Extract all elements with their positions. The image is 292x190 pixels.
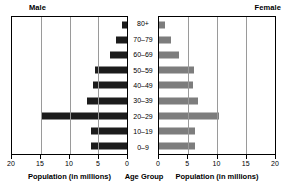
bar-male-10–19 [91,128,127,135]
tick-label: 10 [213,160,221,167]
age-group-label: 20–29 [128,109,158,124]
age-group-label: 70–79 [128,31,158,46]
age-group-label: 30–39 [128,93,158,108]
gridline [188,17,189,154]
gridline [41,17,42,154]
age-group-label: 50–59 [128,62,158,77]
age-group-label: 80+ [128,16,158,31]
gridline [98,17,99,154]
bar-female-0–9 [159,143,195,150]
age-group-label: 60–69 [128,47,158,62]
bar-male-30–39 [87,97,127,104]
age-group-label: 40–49 [128,78,158,93]
bar-female-10–19 [159,128,195,135]
gridline [246,17,247,154]
bar-female-80+ [159,21,165,28]
age-group-label: 10–19 [128,124,158,139]
male-plot-area [11,16,128,155]
male-axis-caption: Population (in millions) [11,172,128,181]
bar-male-20–29 [41,112,127,119]
tick-label: 20 [7,160,15,167]
gridline [70,17,71,154]
tick-mark [11,155,12,159]
gridline [217,17,218,154]
tick-mark [187,155,188,159]
tick-mark [127,155,128,159]
tick-label: 0 [125,160,129,167]
female-axis-caption: Population (in millions) [158,172,276,181]
tick-label: 0 [156,160,160,167]
tick-label: 15 [36,160,44,167]
tick-mark [217,155,218,159]
tick-mark [275,155,276,159]
female-side-label: Female [255,3,281,12]
age-group-label: 0–9 [128,140,158,155]
bar-male-80+ [122,21,127,28]
bar-male-50–59 [95,67,127,74]
tick-mark [158,155,159,159]
tick-label: 5 [185,160,189,167]
tick-label: 20 [271,160,279,167]
bar-female-60–69 [159,52,179,59]
tick-label: 15 [242,160,250,167]
tick-mark [69,155,70,159]
bar-female-30–39 [159,97,198,104]
tick-mark [40,155,41,159]
female-plot-area [158,16,276,155]
tick-mark [98,155,99,159]
tick-label: 10 [65,160,73,167]
bar-male-70–79 [116,36,128,43]
population-pyramid-chart: Male Female 80+70–7960–6950–5940–4930–39… [0,0,292,190]
male-side-label: Male [29,3,46,12]
bar-female-70–79 [159,36,171,43]
tick-mark [246,155,247,159]
age-group-axis: 80+70–7960–6950–5940–4930–3920–2910–190–… [128,16,158,155]
bar-male-0–9 [91,143,127,150]
tick-label: 5 [96,160,100,167]
bar-male-60–69 [110,52,127,59]
